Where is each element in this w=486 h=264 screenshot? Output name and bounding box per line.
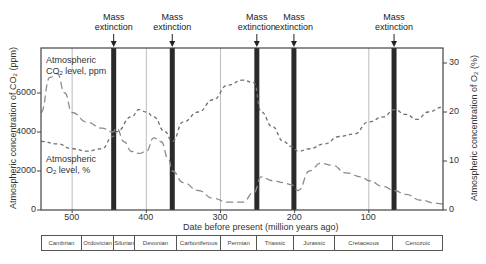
o2-annotation-line1: Atmospheric bbox=[46, 154, 96, 165]
o2-annotation-line2: O2 level, % bbox=[46, 165, 96, 178]
period-cenozoic: Cenozoic bbox=[393, 236, 442, 250]
tick-label: 500 bbox=[64, 212, 79, 222]
tick-label: 200 bbox=[287, 212, 302, 222]
period-cambrian: Cambrian bbox=[42, 236, 82, 250]
arrow-head-icon bbox=[111, 41, 117, 47]
arrow-head-icon bbox=[169, 41, 175, 47]
co2-annotation-line2: CO2 level, ppm bbox=[46, 66, 106, 79]
period-jurassic: Jurassic bbox=[294, 236, 335, 250]
tick-label: 100 bbox=[361, 212, 376, 222]
extinction-label: Massextinction bbox=[142, 12, 202, 32]
tick-label: 2000 bbox=[16, 165, 36, 175]
o2-line bbox=[41, 80, 443, 151]
tick-label: 4000 bbox=[16, 126, 36, 136]
extinction-label: Massextinction bbox=[84, 12, 144, 32]
extinction-bar bbox=[170, 48, 175, 210]
mass-extinction-bars bbox=[111, 48, 396, 210]
tick-label: 30 bbox=[449, 57, 459, 67]
tick-label: 0 bbox=[31, 204, 36, 214]
o2-annotation: Atmospheric O2 level, % bbox=[46, 154, 96, 178]
period-devonian: Devonian bbox=[135, 236, 177, 250]
tick-label: 300 bbox=[212, 212, 227, 222]
period-silurian: Silurian bbox=[114, 236, 135, 250]
extinction-label: Massextinction bbox=[264, 12, 324, 32]
arrow-head-icon bbox=[391, 41, 397, 47]
y-axis-right-title: Atmospheric concentration of O2 (%) bbox=[469, 43, 479, 213]
extinction-bar bbox=[111, 48, 116, 210]
co2-annotation-line1: Atmospheric bbox=[46, 55, 106, 66]
period-carboniferous: Carboniferous bbox=[177, 236, 221, 250]
extinction-bar bbox=[291, 48, 296, 210]
tick-label: 0 bbox=[449, 204, 454, 214]
period-cretaceous: Cretaceous bbox=[335, 236, 393, 250]
extinction-arrows bbox=[111, 34, 397, 47]
gridlines bbox=[72, 48, 369, 210]
period-triassic: Triassic bbox=[257, 236, 295, 250]
extinction-label: Massextinction bbox=[364, 12, 424, 32]
extinction-bar bbox=[392, 48, 397, 210]
arrow-head-icon bbox=[254, 41, 260, 47]
arrow-head-icon bbox=[291, 41, 297, 47]
co2-line bbox=[41, 74, 443, 205]
tick-label: 400 bbox=[138, 212, 153, 222]
y-axis-left-title: Atmospheric concentration of CO2 (ppm) bbox=[8, 43, 18, 213]
co2-annotation: Atmospheric CO2 level, ppm bbox=[46, 55, 106, 79]
period-permian: Permian bbox=[221, 236, 256, 250]
tick-label: 20 bbox=[449, 106, 459, 116]
x-axis-title: Date before present (million years ago) bbox=[183, 222, 339, 232]
tick-label: 10 bbox=[449, 155, 459, 165]
geologic-period-bar: CambrianOrdovicianSilurianDevonianCarbon… bbox=[41, 235, 443, 251]
period-ordovician: Ordovician bbox=[82, 236, 114, 250]
tick-label: 6000 bbox=[16, 87, 36, 97]
